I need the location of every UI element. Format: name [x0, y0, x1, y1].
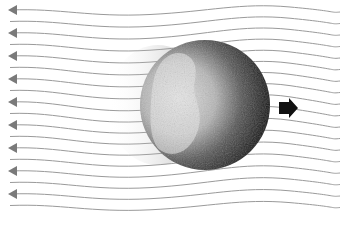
flow-line [10, 166, 340, 177]
flow-diagram [0, 0, 351, 225]
arrowhead-left-icon [8, 74, 17, 84]
motion-arrow-icon [279, 98, 298, 118]
arrowhead-left-icon [8, 5, 17, 15]
flow-line [10, 28, 340, 39]
arrowhead-left-icon [8, 97, 17, 107]
sphere [140, 40, 270, 170]
arrowhead-left-icon [8, 51, 17, 61]
flow-line [10, 6, 340, 15]
flow-line [10, 201, 340, 210]
flow-line [10, 17, 340, 27]
flow-line [10, 190, 340, 200]
arrowhead-left-icon [8, 28, 17, 38]
arrowhead-left-icon [8, 189, 17, 199]
arrowhead-left-icon [8, 143, 17, 153]
flow-line [10, 178, 340, 189]
arrowhead-left-icon [8, 166, 17, 176]
arrowhead-left-icon [8, 120, 17, 130]
